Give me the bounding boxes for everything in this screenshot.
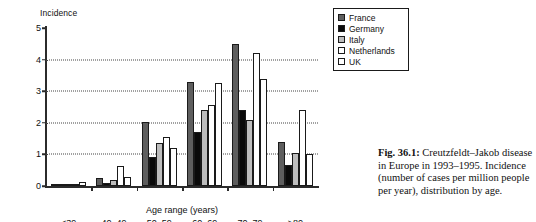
- bar-italy: [110, 180, 117, 186]
- bar-france: [187, 82, 194, 186]
- y-axis-tick-label: 4: [36, 55, 41, 65]
- x-axis-category-label: 40–49: [101, 218, 126, 222]
- bar-group: [227, 28, 272, 186]
- plot-area: 012345 <3940–4950–5960–6970–79>80: [46, 28, 318, 186]
- legend-swatch-icon: [338, 47, 345, 54]
- figure-caption: Fig. 36.1: Creutzfeldt–Jakob disease in …: [378, 147, 533, 197]
- x-axis-separator-tick: [137, 186, 139, 191]
- bar-uk: [260, 79, 267, 186]
- x-axis-category-label: 60–69: [192, 218, 217, 222]
- bar-netherlands: [208, 105, 215, 186]
- bar-france: [51, 184, 58, 186]
- y-axis-tick-label: 1: [36, 149, 41, 159]
- x-axis-separator-tick: [182, 186, 184, 191]
- y-axis-tick-label: 0: [36, 181, 41, 191]
- legend-label: Netherlands: [349, 46, 395, 56]
- bar-group: [137, 28, 182, 186]
- bar-group: [91, 28, 136, 186]
- y-axis-tick-label: 3: [36, 86, 41, 96]
- x-axis-category-label: 50–59: [147, 218, 172, 222]
- legend-swatch-icon: [338, 36, 345, 43]
- chart-legend: FranceGermanyItalyNetherlandsUK: [333, 8, 409, 71]
- bar-netherlands: [299, 110, 306, 186]
- legend-swatch-icon: [338, 25, 345, 32]
- bar-italy: [201, 110, 208, 186]
- bar-group: [182, 28, 227, 186]
- x-axis-title: Age range (years): [146, 205, 218, 215]
- legend-swatch-icon: [338, 14, 345, 21]
- bar-netherlands: [163, 137, 170, 186]
- legend-swatch-icon: [338, 58, 345, 65]
- legend-item-netherlands: Netherlands: [338, 45, 401, 56]
- x-axis-category-label: >80: [288, 218, 303, 222]
- bar-uk: [306, 154, 313, 186]
- legend-label: UK: [349, 57, 361, 67]
- bar-italy: [65, 184, 72, 186]
- bar-france: [142, 122, 149, 186]
- bar-uk: [124, 177, 131, 186]
- bar-france: [96, 178, 103, 186]
- x-axis-separator-tick: [227, 186, 229, 191]
- y-axis-title: Incidence: [40, 8, 77, 18]
- bar-germany: [285, 165, 292, 186]
- y-axis-tick-label: 5: [36, 23, 41, 33]
- bar-italy: [292, 153, 299, 186]
- bar-germany: [58, 184, 65, 186]
- bar-uk: [215, 83, 222, 186]
- bar-italy: [156, 143, 163, 186]
- bar-group: [46, 28, 91, 186]
- bar-uk: [170, 148, 177, 186]
- bar-group: [273, 28, 318, 186]
- legend-item-germany: Germany: [338, 23, 401, 34]
- bar-netherlands: [253, 53, 260, 186]
- bar-netherlands: [72, 184, 79, 186]
- bar-uk: [79, 182, 86, 186]
- bar-france: [278, 142, 285, 186]
- bar-italy: [246, 120, 253, 186]
- figure-root: Incidence 012345 <3940–4950–5960–6970–79…: [0, 0, 536, 222]
- figure-caption-number: Fig. 36.1:: [378, 147, 420, 158]
- bar-germany: [194, 132, 201, 186]
- x-axis-separator-tick: [273, 186, 275, 191]
- legend-item-uk: UK: [338, 56, 401, 67]
- bar-netherlands: [117, 166, 124, 186]
- x-axis-category-label: <39: [61, 218, 76, 222]
- bar-france: [232, 44, 239, 186]
- legend-label: France: [349, 13, 375, 23]
- legend-label: Germany: [349, 24, 384, 34]
- bar-germany: [103, 183, 110, 186]
- x-axis-category-label: 70–79: [237, 218, 262, 222]
- bar-germany: [149, 157, 156, 186]
- chart-panel: Incidence 012345 <3940–4950–5960–6970–79…: [0, 0, 330, 222]
- bar-germany: [239, 110, 246, 186]
- x-axis-separator-tick: [91, 186, 93, 191]
- legend-item-france: France: [338, 12, 401, 23]
- legend-item-italy: Italy: [338, 34, 401, 45]
- legend-label: Italy: [349, 35, 365, 45]
- y-axis-tick-label: 2: [36, 118, 41, 128]
